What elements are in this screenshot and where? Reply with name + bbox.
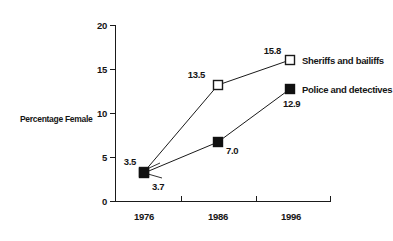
y-tick-label-15: 15 xyxy=(97,64,108,75)
legend-label-police-and-detectives: Police and detectives xyxy=(302,84,392,95)
marker-sheriffs-1986[interactable] xyxy=(214,81,223,90)
legend-label-sheriffs-and-bailiffs: Sheriffs and bailiffs xyxy=(302,55,384,66)
data-label-police-1976: 3.7 xyxy=(152,181,164,192)
y-tick-label-0: 0 xyxy=(102,196,107,207)
data-label-police-1996: 12.9 xyxy=(283,98,300,109)
data-label-sheriffs-1976: 3.5 xyxy=(124,156,137,167)
y-tick-label-20: 20 xyxy=(97,20,107,31)
x-tick-label-1996: 1996 xyxy=(281,211,301,222)
marker-police-1996[interactable] xyxy=(286,85,295,94)
leader-line-37 xyxy=(148,174,162,178)
data-label-sheriffs-1986: 13.5 xyxy=(188,69,206,80)
x-tick-label-1986: 1986 xyxy=(208,211,228,222)
series-line-sheriffs-and-bailiffs xyxy=(144,60,290,172)
data-label-police-1986: 7.0 xyxy=(226,145,238,156)
marker-sheriffs-1996[interactable] xyxy=(286,56,295,65)
marker-police-1986[interactable] xyxy=(214,138,223,147)
series-line-police-and-detectives xyxy=(144,89,290,173)
y-axis-title: Percentage Female xyxy=(20,114,93,124)
chart-container: 20 15 10 5 0 Percentage Female 1976 1986… xyxy=(0,0,393,241)
y-tick-label-5: 5 xyxy=(102,152,108,163)
marker-police-1976[interactable] xyxy=(140,169,149,178)
line-chart: 20 15 10 5 0 Percentage Female 1976 1986… xyxy=(0,0,393,241)
x-tick-label-1976: 1976 xyxy=(134,211,154,222)
data-label-sheriffs-1996: 15.8 xyxy=(264,45,281,56)
y-tick-label-10: 10 xyxy=(97,108,107,119)
